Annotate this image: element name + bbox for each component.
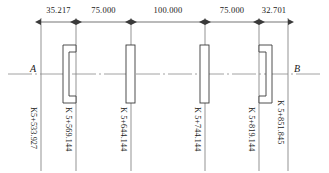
axis-point-label-a: A <box>30 63 36 74</box>
dimension-label-d5: 32.701 <box>262 5 287 15</box>
dimension-label-d2: 75.000 <box>91 5 116 15</box>
station-label-s5: K 5+819.144 <box>247 107 256 151</box>
axis-point-label-b: B <box>294 63 300 74</box>
support-pier-1 <box>126 45 135 103</box>
station-label-s2: K 5+569.144 <box>64 107 73 151</box>
dimension-label-d3: 100.000 <box>153 5 182 15</box>
support-pier-2 <box>200 45 209 103</box>
station-label-s6: K 5+851.845 <box>276 100 285 144</box>
drawing-vector-layer <box>0 0 329 173</box>
dimension-label-d1: 35.217 <box>46 5 71 15</box>
dimension-label-d4: 75.000 <box>220 5 245 15</box>
engineering-drawing-canvas: 35.217 75.000 100.000 75.000 32.701 A B … <box>0 0 329 173</box>
station-label-s4: K 5+744.144 <box>193 107 202 151</box>
station-label-s1: K5+533.927 <box>29 107 38 149</box>
station-label-s3: K 5+644.144 <box>119 107 128 151</box>
